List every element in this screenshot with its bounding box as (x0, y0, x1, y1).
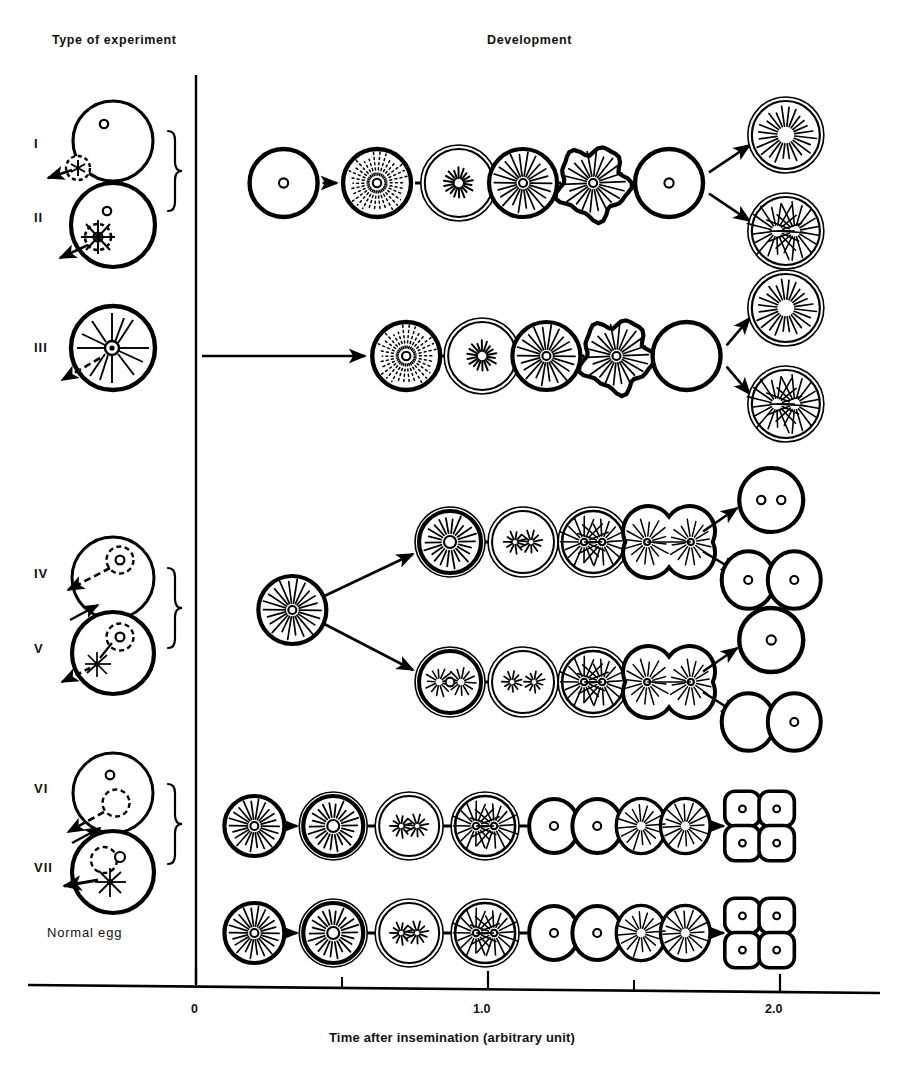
row-label-VI: VI (34, 781, 48, 796)
row-label-I: I (34, 136, 39, 151)
axis-tick-label-0: 0 (191, 1002, 198, 1016)
dev-row-group-I-II (250, 97, 824, 269)
cell-egg-twin-aster (451, 792, 519, 860)
cell-egg-small-aster (421, 145, 497, 221)
row-label-VII: VII (34, 860, 53, 875)
brace-IV-V (168, 568, 182, 648)
cell-egg-aster-nucleus (415, 507, 485, 577)
cell-two-cell (529, 799, 622, 853)
cell-egg-lobed-aster (579, 320, 655, 396)
cell-egg-dotted-aster (372, 322, 440, 390)
cell-egg-metaphase (375, 792, 443, 860)
row-label-IV: IV (34, 566, 48, 581)
dev-row-group-normal (224, 898, 794, 968)
cell-egg-large-aster (512, 322, 580, 390)
cell-egg-metaphase (488, 507, 558, 577)
cell-egg-large-aster (489, 149, 557, 217)
cell-egg-nucleus-plain (739, 608, 803, 672)
dev-row-group-VI-VII (224, 791, 794, 861)
cell-egg-empty (653, 322, 721, 390)
cell-cell-cleaving-asters (623, 506, 715, 578)
cell-egg-twin-aster (558, 647, 628, 717)
cell-egg-twin-aster (558, 507, 628, 577)
cell-egg-large-aster-double (748, 97, 824, 173)
brace-VI-VII (168, 784, 182, 864)
connector-arrow (324, 554, 413, 596)
cell-egg-twin-aster (451, 899, 519, 967)
cell-egg-large-aster (224, 796, 284, 856)
connector-arrow (709, 145, 750, 172)
figure-canvas: Type of experiment Development I II III … (0, 0, 904, 1076)
cell-egg-twin-aster-double (747, 193, 823, 269)
cell-egg-aster-nucleus (299, 899, 367, 967)
cell-egg-twin-aster-double (747, 366, 823, 442)
connector-arrow (324, 624, 413, 670)
diagram-artwork (0, 0, 904, 1076)
cell-egg-large-aster (224, 903, 284, 963)
cell-egg-lobed-aster (556, 147, 632, 223)
experiment-icon-I (48, 101, 153, 181)
brace-I-II (168, 131, 182, 211)
cell-egg-nucleus-plain (635, 149, 703, 217)
cell-egg-twin-small-aster (415, 647, 485, 717)
cell-egg-metaphase (375, 899, 443, 967)
cell-four-cell (725, 898, 795, 968)
row-label-III: III (34, 340, 48, 355)
header-type-of-experiment: Type of experiment (52, 33, 176, 47)
experiment-icon-VII (64, 831, 154, 913)
brace-group (168, 131, 182, 864)
cell-egg-dotted-aster (343, 149, 411, 217)
cell-egg-binucleate (739, 468, 803, 532)
experiment-icon-V (62, 612, 154, 694)
connector-arrow (709, 194, 750, 221)
row-label-II: II (34, 210, 43, 225)
axis-caption: Time after insemination (arbitrary unit) (0, 1030, 904, 1045)
dev-row-group-III (202, 270, 824, 442)
row-label-normal-egg: Normal egg (47, 925, 122, 940)
cell-four-cell (725, 791, 795, 861)
cell-two-cell (529, 906, 622, 960)
axis-tick-label-2: 2.0 (765, 1002, 782, 1016)
development-group (202, 97, 824, 968)
cell-two-cell-asters (616, 905, 710, 960)
connector-arrow (727, 367, 750, 394)
experiment-icon-II (60, 183, 155, 267)
cell-two-cell-one-nucleus (722, 693, 821, 751)
cell-egg-nucleus (250, 149, 318, 217)
connector-arrow (727, 318, 750, 345)
cell-egg-large-aster-double (748, 270, 824, 346)
x-axis-line (28, 985, 880, 993)
dev-row-group-IV-V (258, 468, 820, 751)
experiment-icon-III (62, 306, 155, 390)
cell-egg-small-aster (444, 318, 520, 394)
cell-two-cell (722, 551, 821, 609)
cell-egg-two-small-asters (488, 647, 558, 717)
header-development: Development (487, 33, 572, 47)
cell-two-cell-asters (616, 798, 710, 853)
experiment-icon-IV (68, 537, 154, 620)
cell-egg-aster-nucleus (299, 792, 367, 860)
cell-cell-cleaving-asters (623, 646, 715, 718)
experiment-icons-group (48, 101, 155, 913)
row-label-V: V (34, 641, 44, 656)
cell-egg-large-aster (258, 576, 326, 644)
axis-tick-label-1: 1.0 (473, 1002, 490, 1016)
